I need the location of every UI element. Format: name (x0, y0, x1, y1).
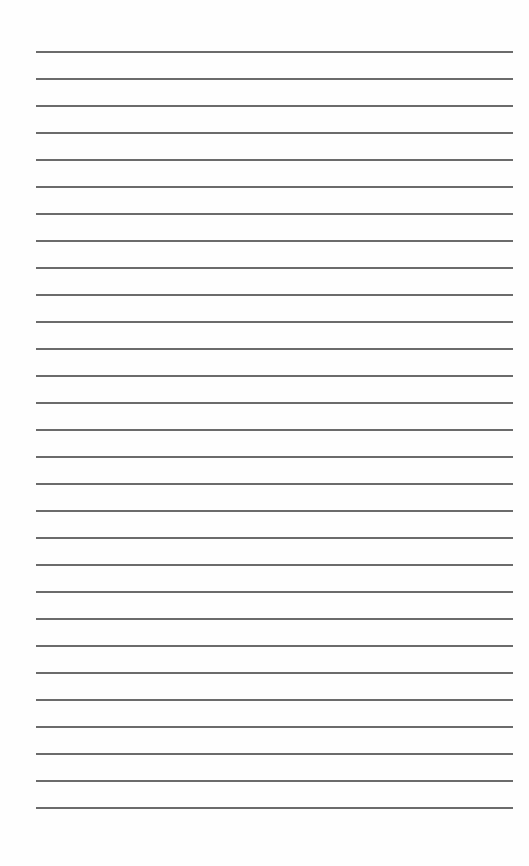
ruled-line (36, 672, 513, 674)
ruled-line (36, 591, 513, 593)
ruled-line (36, 699, 513, 701)
ruled-line (36, 726, 513, 728)
ruled-line (36, 537, 513, 539)
ruled-line (36, 753, 513, 755)
ruled-line (36, 132, 513, 134)
lined-paper-sheet (0, 0, 529, 866)
ruled-line (36, 510, 513, 512)
ruled-line (36, 348, 513, 350)
ruled-line (36, 159, 513, 161)
ruled-line (36, 429, 513, 431)
ruled-line (36, 456, 513, 458)
ruled-line (36, 213, 513, 215)
ruled-line (36, 645, 513, 647)
ruled-line (36, 105, 513, 107)
ruled-line (36, 402, 513, 404)
ruled-line (36, 375, 513, 377)
ruled-line (36, 78, 513, 80)
ruled-line (36, 186, 513, 188)
ruled-line (36, 240, 513, 242)
ruled-line (36, 564, 513, 566)
ruled-line (36, 267, 513, 269)
ruled-line (36, 780, 513, 782)
ruled-line (36, 294, 513, 296)
ruled-line (36, 321, 513, 323)
ruled-line (36, 618, 513, 620)
ruled-line (36, 807, 513, 809)
ruled-line (36, 51, 513, 53)
ruled-line (36, 483, 513, 485)
